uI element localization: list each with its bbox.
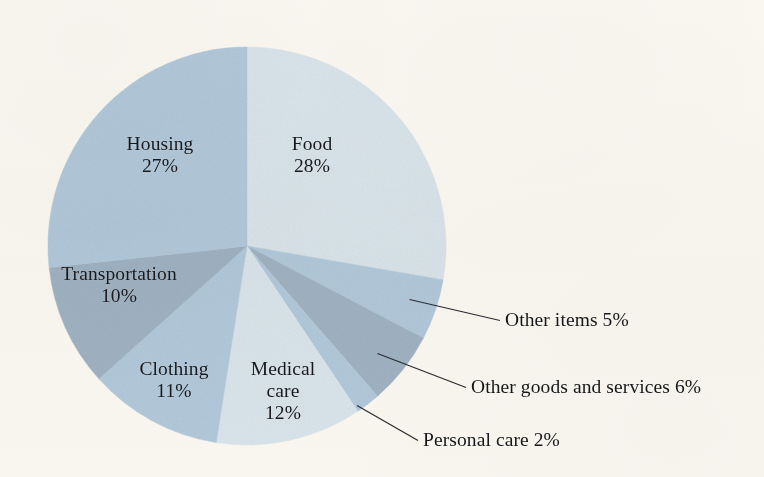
callout-label-other-goods-and-services: Other goods and services 6%: [471, 376, 701, 397]
slice-label-food: Food 28%: [252, 133, 372, 177]
slice-label-food-percent: 28%: [252, 155, 372, 177]
callout-label-personal-care: Personal care 2%: [423, 429, 560, 450]
callout-label-other-items: Other items 5%: [505, 309, 629, 330]
slice-label-medical-care-name-line1: Medical: [228, 358, 338, 380]
slice-label-housing-percent: 27%: [90, 155, 230, 177]
slice-label-housing-name: Housing: [90, 133, 230, 155]
slice-label-clothing: Clothing 11%: [115, 358, 233, 402]
slice-label-medical-care-name-line2: care: [228, 380, 338, 402]
slice-label-housing: Housing 27%: [90, 133, 230, 177]
slice-label-food-name: Food: [252, 133, 372, 155]
leader-line-personal-care: [357, 406, 418, 441]
pie-chart-canvas: [0, 0, 764, 477]
slice-label-transportation-name: Transportation: [24, 263, 214, 285]
pie-chart-figure: Housing 27% Food 28% Transportation 10% …: [0, 0, 764, 477]
slice-label-clothing-name: Clothing: [115, 358, 233, 380]
slice-label-medical-care-percent: 12%: [228, 402, 338, 424]
slice-label-medical-care: Medical care 12%: [228, 358, 338, 423]
slice-label-transportation: Transportation 10%: [24, 263, 214, 307]
slice-label-clothing-percent: 11%: [115, 380, 233, 402]
slice-label-transportation-percent: 10%: [24, 285, 214, 307]
